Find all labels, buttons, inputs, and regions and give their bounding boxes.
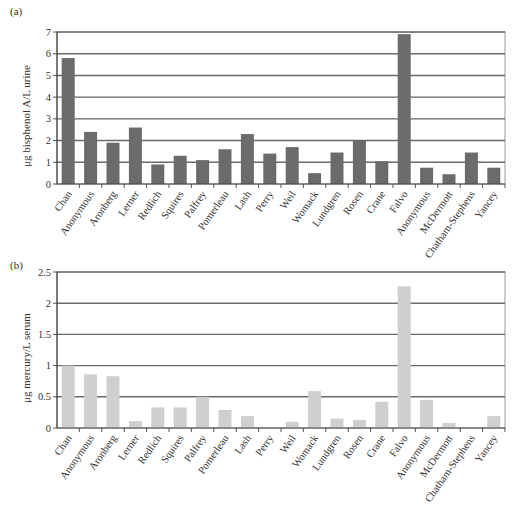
bar bbox=[129, 421, 142, 428]
bar bbox=[308, 391, 321, 428]
bar bbox=[465, 153, 478, 184]
x-tick-label: Weil bbox=[278, 189, 298, 211]
bar bbox=[196, 160, 209, 184]
x-tick-label: Falvo bbox=[387, 433, 410, 459]
bar bbox=[129, 128, 142, 184]
bar bbox=[331, 419, 344, 428]
bar bbox=[151, 407, 164, 428]
y-tick-label: 2.5 bbox=[38, 267, 51, 278]
x-tick-label: Falvo bbox=[387, 189, 410, 215]
x-tick-label: Redlich bbox=[136, 432, 164, 466]
bar bbox=[375, 161, 388, 184]
panel-label: (a) bbox=[10, 5, 23, 18]
bar bbox=[241, 416, 254, 428]
bar bbox=[263, 154, 276, 184]
bar bbox=[219, 149, 232, 184]
x-tick-label: Perry bbox=[253, 188, 275, 214]
x-tick-label: Crane bbox=[364, 189, 388, 216]
y-tick-label: 6 bbox=[46, 48, 51, 59]
bar bbox=[241, 134, 254, 184]
y-axis-label: μg bisphenol A/L urine bbox=[20, 65, 32, 167]
chart-panel-b: (b)00.511.522.5μg mercury/L serumChanAno… bbox=[10, 259, 505, 504]
y-tick-label: 0 bbox=[46, 423, 51, 434]
x-tick-label: Crane bbox=[364, 433, 388, 460]
y-tick-label: 3 bbox=[46, 113, 51, 124]
bar bbox=[84, 132, 97, 184]
y-axis-label: μg mercury/L serum bbox=[20, 313, 32, 403]
bar bbox=[62, 58, 75, 184]
bar bbox=[286, 422, 299, 428]
y-tick-label: 2 bbox=[46, 135, 51, 146]
x-tick-label: Chan bbox=[52, 188, 74, 213]
bar bbox=[487, 416, 500, 428]
chart-panel-a: (a)01234567μg bisphenol A/L urineChanAno… bbox=[10, 5, 505, 260]
bar bbox=[375, 402, 388, 428]
y-tick-label: 1.5 bbox=[38, 329, 51, 340]
x-tick-label: Squires bbox=[159, 189, 186, 221]
bar bbox=[174, 156, 187, 184]
bar bbox=[308, 173, 321, 184]
bar bbox=[353, 141, 366, 184]
y-tick-label: 1 bbox=[46, 157, 51, 168]
y-tick-label: 0 bbox=[46, 179, 51, 190]
y-tick-label: 1 bbox=[46, 360, 51, 371]
bar bbox=[443, 423, 456, 428]
bar bbox=[331, 153, 344, 184]
bar bbox=[62, 366, 75, 428]
y-tick-label: 5 bbox=[46, 70, 51, 81]
x-tick-label: Weil bbox=[278, 433, 298, 455]
bar bbox=[443, 174, 456, 184]
x-tick-label: Chan bbox=[52, 432, 74, 457]
y-tick-label: 4 bbox=[46, 92, 52, 103]
y-tick-label: 7 bbox=[46, 27, 51, 38]
y-tick-label: 2 bbox=[46, 298, 51, 309]
y-tick-label: 0.5 bbox=[38, 391, 51, 402]
bar bbox=[107, 376, 120, 428]
bar bbox=[487, 168, 500, 184]
x-tick-label: Yancey bbox=[473, 432, 500, 464]
bar bbox=[219, 410, 232, 428]
bar bbox=[107, 143, 120, 184]
bar bbox=[174, 407, 187, 428]
plot-frame bbox=[57, 32, 505, 184]
bar bbox=[196, 397, 209, 428]
x-tick-label: Squires bbox=[159, 433, 186, 465]
bar bbox=[398, 286, 411, 428]
x-tick-label: Redlich bbox=[136, 188, 164, 222]
panel-label: (b) bbox=[10, 259, 23, 272]
x-tick-label: Lash bbox=[232, 188, 253, 212]
bar bbox=[398, 34, 411, 184]
x-tick-label: Yancey bbox=[473, 188, 500, 220]
bar bbox=[420, 168, 433, 184]
plot-frame bbox=[57, 272, 505, 428]
x-tick-label: Perry bbox=[253, 432, 275, 458]
x-tick-label: Lash bbox=[232, 432, 253, 456]
bar bbox=[84, 374, 97, 428]
bar bbox=[151, 164, 164, 184]
bar bbox=[353, 420, 366, 428]
figure: (a)01234567μg bisphenol A/L urineChanAno… bbox=[0, 0, 527, 529]
x-tick-label: Rosen bbox=[341, 188, 365, 216]
bar bbox=[286, 147, 299, 184]
bar bbox=[420, 400, 433, 428]
x-tick-label: Rosen bbox=[341, 432, 365, 460]
